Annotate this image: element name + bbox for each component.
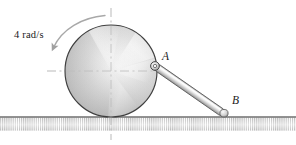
pin-joint-a-hole (153, 64, 156, 67)
ground (0, 117, 296, 131)
ground-hatching (0, 118, 296, 131)
angular-velocity-label: 4 rad/s (14, 29, 44, 40)
disk (65, 25, 163, 118)
mechanics-diagram-svg (0, 0, 296, 145)
rod-ab (151, 62, 228, 117)
rod-body (153, 63, 226, 117)
rod-highlight (158, 66, 222, 111)
figure-canvas: 4 rad/s A B (0, 0, 296, 145)
point-label-a: A (162, 50, 169, 62)
point-label-b: B (232, 94, 239, 106)
rod-end-cap-b (220, 109, 228, 117)
